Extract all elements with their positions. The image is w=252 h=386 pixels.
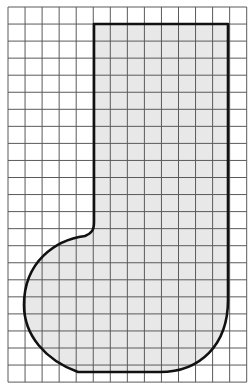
stocking-shape-fill	[24, 24, 228, 372]
stocking-grid-figure	[0, 0, 252, 386]
